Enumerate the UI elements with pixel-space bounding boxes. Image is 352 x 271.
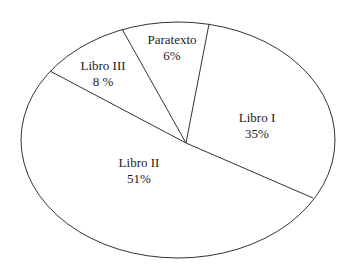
slice-value-libro3: 8 % [93, 74, 114, 89]
slice-label-paratexto: Paratexto [147, 32, 196, 47]
slice-value-libro2: 51% [127, 171, 151, 186]
slice-label-libro3: Libro III [80, 58, 125, 73]
slice-value-paratexto: 6% [163, 48, 181, 63]
slice-label-libro1: Libro I [239, 110, 275, 125]
slice-value-libro1: 35% [245, 126, 269, 141]
pie-chart: Paratexto 6% Libro III 8 % Libro I 35% L… [0, 0, 352, 271]
slice-label-libro2: Libro II [119, 155, 160, 170]
